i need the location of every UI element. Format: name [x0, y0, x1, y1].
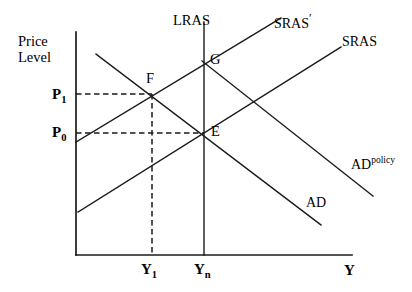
- curve-label-sras-prime-mark: ′: [309, 11, 312, 25]
- curve-label-ad-policy-base: AD: [351, 157, 371, 172]
- ad-as-diagram: Price Level Y P1 P0 Y1 Yn LRAS SRAS′ SRA…: [0, 0, 412, 292]
- curve-label-ad: AD: [306, 195, 326, 211]
- x-tick-label-y1: Y1: [141, 261, 157, 281]
- curve-label-ad-policy-superscript: policy: [371, 155, 395, 165]
- point-label-f: F: [146, 70, 154, 86]
- sras-curve: [78, 47, 341, 212]
- ad-curve: [96, 54, 321, 225]
- point-label-g: G: [210, 51, 220, 67]
- x-tick-yn-base: Y: [194, 261, 205, 277]
- y-axis-title: Price Level: [18, 33, 51, 65]
- x-tick-yn-subscript: n: [205, 269, 211, 280]
- curve-label-ad-policy: ADpolicy: [351, 155, 395, 172]
- y-tick-label-p1: P1: [52, 86, 66, 106]
- y-tick-p1-base: P: [52, 86, 61, 102]
- y-tick-p0-subscript: 0: [61, 132, 66, 143]
- y-axis-title-line1: Price: [18, 33, 51, 49]
- y-tick-p1-subscript: 1: [61, 94, 66, 105]
- curve-label-sras: SRAS: [342, 34, 377, 50]
- x-tick-y1-subscript: 1: [152, 269, 157, 280]
- y-tick-label-p0: P0: [52, 124, 66, 144]
- x-tick-label-yn: Yn: [194, 261, 211, 281]
- sras-prime-curve: [76, 18, 281, 142]
- curve-label-sras-prime-base: SRAS: [274, 16, 309, 31]
- point-label-e: E: [211, 123, 220, 139]
- y-tick-p0-base: P: [52, 124, 61, 140]
- x-axis-title: Y: [344, 262, 355, 279]
- x-tick-y1-base: Y: [141, 261, 152, 277]
- y-axis-title-line2: Level: [18, 49, 51, 65]
- curve-label-lras: LRAS: [173, 12, 210, 28]
- curve-label-sras-prime: SRAS′: [274, 12, 312, 31]
